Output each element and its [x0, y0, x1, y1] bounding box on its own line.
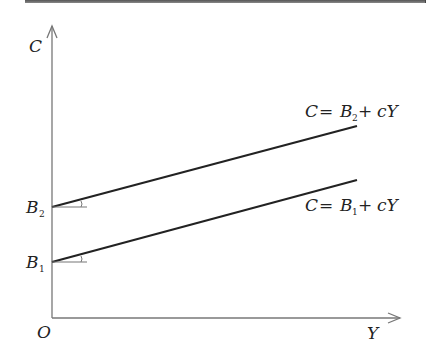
- svg-text:cY: cY: [377, 195, 400, 215]
- svg-text:1: 1: [352, 207, 358, 217]
- intercept-label-b2: B 2: [25, 197, 45, 219]
- svg-text:2: 2: [39, 209, 45, 219]
- svg-text:B: B: [25, 197, 39, 217]
- slope-angle-arc-upper: [81, 201, 82, 207]
- svg-text:=: =: [319, 195, 333, 215]
- svg-text:cY: cY: [377, 101, 400, 121]
- slope-angle-arc-lower: [81, 256, 82, 262]
- line-lower: [52, 180, 357, 262]
- y-axis-label: C: [29, 36, 42, 56]
- svg-text:C: C: [305, 195, 318, 215]
- svg-text:B: B: [339, 101, 353, 121]
- svg-text:C: C: [305, 101, 318, 121]
- equation-upper: C = B 2 + cY: [305, 101, 400, 123]
- svg-text:B: B: [339, 195, 353, 215]
- equation-lower: C = B 1 + cY: [305, 195, 400, 217]
- svg-text:+: +: [358, 195, 372, 215]
- x-axis-label: Y: [367, 323, 380, 343]
- origin-label: O: [37, 322, 51, 342]
- svg-text:+: +: [358, 101, 372, 121]
- svg-text:=: =: [319, 101, 333, 121]
- svg-text:B: B: [25, 252, 39, 272]
- intercept-label-b1: B 1: [25, 252, 45, 274]
- svg-text:1: 1: [39, 264, 45, 274]
- svg-text:2: 2: [352, 113, 358, 123]
- consumption-diagram: C Y O B 2 B 1 C = B 2 + cY C = B 1 + cY: [0, 0, 436, 361]
